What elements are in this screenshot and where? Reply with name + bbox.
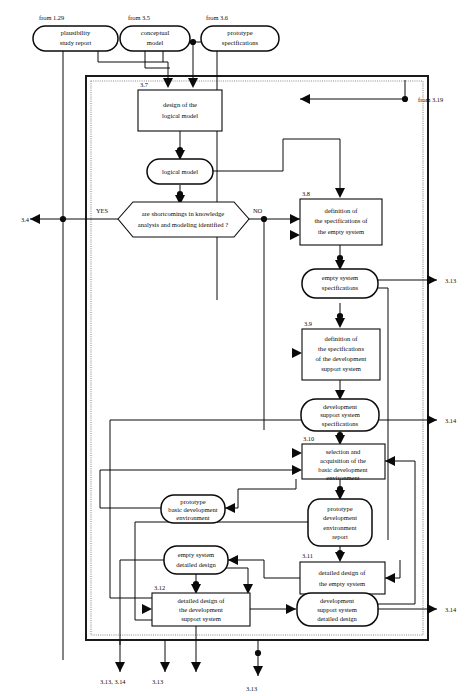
node-label-line: of the development [316, 355, 367, 362]
step-number-3-11: 3.11 [302, 552, 313, 559]
input-node-conceptual-model[interactable]: conceptual model [120, 26, 190, 51]
node-label-line: plausibility [61, 29, 91, 36]
node-label-line: detailed design [176, 561, 216, 568]
node-label-line: the empty system [319, 580, 366, 587]
process-3-12[interactable]: detailed design of the development suppo… [152, 593, 250, 626]
node-label-line: empty system [322, 274, 359, 281]
input-label-from-3-19: from 3.19 [418, 96, 443, 103]
node-label-line: empty system [178, 551, 215, 558]
artifact-development-support-system-detailed-design[interactable]: development support system detailed desi… [297, 593, 378, 626]
artifact-logical-model[interactable]: logical model [147, 159, 213, 184]
process-3-11[interactable]: detailed design of the empty system [300, 562, 385, 594]
input-label-from-1-29: from 1.29 [39, 14, 64, 21]
node-label-line: development [323, 403, 357, 410]
flowchart-diagram: plausibility study report from 1.29 conc… [0, 0, 473, 696]
process-3-10[interactable]: selection and acquisition of the basic d… [302, 444, 385, 481]
node-label-line: are shortcomings in knowledge [142, 210, 225, 217]
node-label-line: specifications [322, 420, 359, 427]
input-label-from-3-5: from 3.5 [128, 14, 150, 21]
process-3-9[interactable]: definition of the specifications of the … [302, 329, 380, 380]
node-label-line: development [323, 514, 357, 521]
artifact-empty-system-detailed-design[interactable]: empty system detailed design [164, 546, 228, 574]
output-label-3-13-a: 3.13 [445, 277, 456, 284]
node-label-line: report [332, 533, 348, 540]
process-3-8[interactable]: definition of the specifications of the … [300, 199, 382, 245]
node-label-line: logical model [162, 168, 198, 175]
node-label-line: detailed design of [319, 569, 367, 576]
node-label-line: acquisition of the [320, 457, 366, 464]
node-label-line: the development [179, 606, 223, 613]
node-label-line: model [147, 39, 164, 46]
output-label-3-13-b: 3.13 [152, 678, 163, 685]
step-number-3-10: 3.10 [303, 435, 314, 442]
decision-shortcomings[interactable]: are shortcomings in knowledge analysis a… [118, 202, 249, 237]
artifact-prototype-development-environment-report[interactable]: prototype development environment report [308, 499, 372, 546]
node-label-line: environment [176, 514, 209, 521]
node-label-line: definition of [325, 207, 359, 214]
node-label-line: selection and [326, 448, 361, 455]
node-label-line: prototype [327, 505, 352, 512]
output-label-3-13-c: 3.13 [246, 685, 257, 692]
node-label-line: support system [321, 365, 362, 372]
node-label-line: detailed design [317, 615, 357, 622]
node-label-line: logical model [162, 112, 198, 119]
node-label-line: design of the [163, 101, 197, 108]
node-label-line: specifications [222, 39, 259, 46]
decision-yes-label: YES [96, 207, 109, 214]
input-node-plausibility-study-report[interactable]: plausibility study report [33, 26, 118, 51]
node-label-line: basic development [168, 506, 217, 513]
node-label-line: analysis and modeling identified ? [138, 221, 229, 228]
node-label-line: basic development [318, 466, 367, 473]
step-number-3-7: 3.7 [140, 81, 149, 88]
node-label-line: support system [320, 411, 361, 418]
output-label-3-14-a: 3.14 [445, 417, 457, 424]
node-label-line: support system [317, 606, 358, 613]
node-label-line: study report [60, 39, 92, 46]
node-label-line: the specifications of [314, 217, 368, 224]
node-label-line: support system [181, 615, 222, 622]
node-label-line: development [320, 597, 354, 604]
node-label-line: environment [326, 474, 359, 481]
node-label-line: the empty system [318, 228, 365, 235]
output-label-3-14-b: 3.14 [445, 606, 457, 613]
artifact-empty-system-specifications[interactable]: empty system specifications [302, 269, 378, 298]
node-label-line: specifications [322, 284, 359, 291]
output-label-3-13-3-14: 3.13, 3.14 [100, 678, 126, 685]
artifact-prototype-basic-development-environment[interactable]: prototype basic development environment [161, 495, 225, 523]
output-label-3-4: 3.4 [21, 216, 30, 223]
step-number-3-12: 3.12 [154, 584, 165, 591]
process-3-7[interactable]: design of the logical model [138, 90, 222, 131]
node-label-line: environment [323, 524, 356, 531]
node-label-line: definition of [325, 335, 359, 342]
node-label-line: conceptual [141, 29, 170, 36]
flowchart-canvas: plausibility study report from 1.29 conc… [0, 0, 473, 696]
artifact-development-support-system-specifications[interactable]: development support system specification… [301, 399, 379, 431]
step-number-3-9: 3.9 [304, 320, 312, 327]
input-label-from-3-6: from 3.6 [206, 14, 228, 21]
node-label-line: prototype [180, 498, 205, 505]
input-node-prototype-specifications[interactable]: prototype specifications [201, 26, 279, 51]
node-label-line: detailed design of [178, 597, 226, 604]
node-label-line: the specifications [318, 345, 364, 352]
step-number-3-8: 3.8 [302, 190, 310, 197]
decision-no-label: NO [253, 207, 263, 214]
node-label-line: prototype [227, 29, 252, 36]
